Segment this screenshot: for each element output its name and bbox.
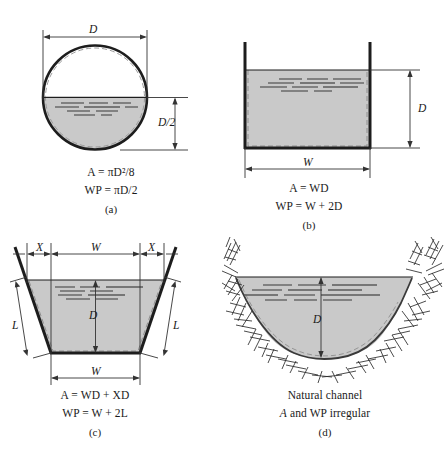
side-offset-right-label-c: X — [148, 242, 155, 254]
figure-root: D D/2 A = πD²/8 WP = πD/2 (a) — [0, 0, 444, 449]
panel-d-natural-channel: D Natural channel A and WP irregular (d) — [222, 225, 444, 449]
panel-b-rectangular-channel: D W A = WD WP = W + 2D (b) — [222, 0, 444, 224]
top-width-dimension-label-c: W — [91, 242, 101, 254]
slope-length-right-label-c: L — [173, 320, 179, 332]
water-fill-b — [246, 70, 369, 148]
width-dimension-label-b: W — [303, 157, 313, 169]
panel-c-trapezoidal-channel: X W X D L L W A = WD + XD WP = W + 2L (c… — [0, 225, 222, 449]
panel-letter-c: (c) — [0, 426, 206, 438]
wetted-perimeter-formula-b: WP = W + 2D — [198, 200, 420, 212]
irregular-note-d: A and WP irregular — [214, 407, 436, 419]
side-offset-left-label-c: X — [36, 242, 43, 254]
irregular-note-symbol-d: A — [280, 407, 287, 419]
bottom-width-dimension-label-c: W — [91, 366, 101, 378]
depth-dimension-label-c: D — [89, 310, 97, 322]
irregular-note-text-d: and WP irregular — [287, 407, 370, 419]
wetted-perimeter-formula-a: WP = πD/2 — [0, 184, 222, 196]
depth-dimension-label-d: D — [313, 314, 321, 326]
slope-length-left-label-c: L — [12, 320, 18, 332]
width-dimension-label-a: D — [89, 24, 97, 36]
wetted-perimeter-formula-c: WP = W + 2L — [0, 407, 206, 419]
panel-a-circular-pipe: D D/2 A = πD²/8 WP = πD/2 (a) — [0, 0, 222, 224]
water-fill-d — [235, 277, 412, 358]
depth-dimension-b — [370, 70, 420, 148]
area-formula-b: A = WD — [198, 182, 420, 194]
panel-letter-a: (a) — [0, 203, 222, 215]
natural-channel-caption-d: Natural channel — [214, 389, 436, 401]
panel-letter-d: (d) — [214, 426, 436, 438]
area-formula-a: A = πD²/8 — [0, 166, 222, 178]
width-dimension-a — [43, 30, 147, 100]
depth-dimension-label-b: D — [418, 103, 426, 115]
depth-dimension-label-a: D/2 — [158, 117, 175, 129]
area-formula-c: A = WD + XD — [0, 389, 206, 401]
